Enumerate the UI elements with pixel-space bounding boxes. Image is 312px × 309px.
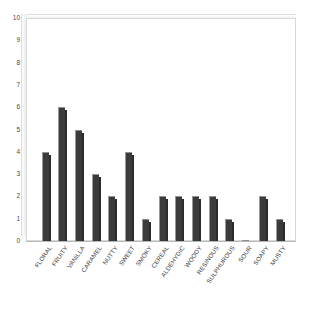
- bar[interactable]: [225, 219, 232, 241]
- x-axis: FLORALFRUITYVANILLACARAMELNUTTYSWEETSMOK…: [26, 243, 296, 309]
- y-tick-label: 2: [16, 193, 20, 200]
- bar[interactable]: [259, 196, 266, 241]
- bar[interactable]: [175, 196, 182, 241]
- bar[interactable]: [209, 196, 216, 241]
- bar[interactable]: [75, 130, 82, 242]
- y-tick-label: 7: [16, 82, 20, 89]
- bar[interactable]: [58, 107, 65, 241]
- y-tick-label: 3: [16, 171, 20, 178]
- y-tick-label: 6: [16, 104, 20, 111]
- x-tick-label: MUSTY: [269, 245, 287, 267]
- bar[interactable]: [108, 196, 115, 241]
- y-tick-label: 10: [13, 15, 20, 22]
- x-tick-label: SWEET: [118, 245, 136, 267]
- x-tick-label: SOUR: [238, 245, 254, 264]
- y-tick-label: 4: [16, 149, 20, 156]
- bar[interactable]: [142, 219, 149, 241]
- y-tick-label: 0: [16, 238, 20, 245]
- bar[interactable]: [192, 196, 199, 241]
- x-tick-label: SOAPY: [252, 245, 270, 266]
- y-tick-label: 1: [16, 215, 20, 222]
- bar[interactable]: [92, 174, 99, 241]
- bar[interactable]: [159, 196, 166, 241]
- y-tick-label: 5: [16, 126, 20, 133]
- bar[interactable]: [276, 219, 283, 241]
- y-axis: 012345678910: [0, 0, 20, 309]
- bar[interactable]: [125, 152, 132, 241]
- bars-container: [26, 18, 296, 241]
- y-tick-label: 8: [16, 59, 20, 66]
- bar-chart: 012345678910 FLORALFRUITYVANILLACARAMELN…: [0, 0, 312, 309]
- bar[interactable]: [42, 152, 49, 241]
- x-tick-label: FLORAL: [33, 245, 52, 269]
- y-tick-label: 9: [16, 37, 20, 44]
- bar[interactable]: [242, 240, 249, 242]
- x-axis-baseline: [26, 241, 296, 242]
